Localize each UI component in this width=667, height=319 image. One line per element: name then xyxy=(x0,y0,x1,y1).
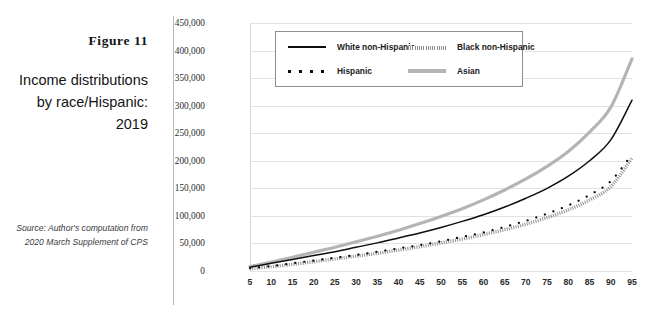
thick-gray-line-key xyxy=(406,65,448,77)
legend-label: Black non-Hispanic xyxy=(457,42,535,52)
legend-item-asian: Asian xyxy=(406,65,480,77)
legend-item-black-non-hispanic: Black non-Hispanic xyxy=(406,41,535,53)
legend-item-white-non-hispanic: White non-Hispanic xyxy=(286,41,415,53)
series-line-asian xyxy=(250,59,632,267)
legend-box: White non-Hispanic Black non-Hispanic Hi… xyxy=(275,31,523,87)
solid-line-key xyxy=(286,41,328,53)
chart-area: 450,000400,000350,000300,000250,000200,0… xyxy=(174,0,667,319)
legend-label: Asian xyxy=(457,66,480,76)
figure-container: Figure 11 Income distributions by race/H… xyxy=(0,0,667,319)
caption-panel: Figure 11 Income distributions by race/H… xyxy=(0,0,174,319)
figure-title: Income distributions by race/Hispanic: 2… xyxy=(10,70,148,135)
legend-item-hispanic: Hispanic xyxy=(286,65,372,77)
series-line-white-non-hispanic xyxy=(250,100,632,267)
legend-label: Hispanic xyxy=(337,66,372,76)
figure-label: Figure 11 xyxy=(88,33,148,49)
legend-label: White non-Hispanic xyxy=(337,42,415,52)
hatched-line-key xyxy=(406,41,448,53)
dotted-line-key xyxy=(286,65,328,77)
figure-source: Source: Author's computation from 2020 M… xyxy=(8,222,148,250)
